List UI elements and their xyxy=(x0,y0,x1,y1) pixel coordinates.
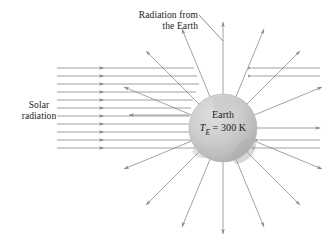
solar-radiation-rays xyxy=(57,68,199,148)
earth-ray xyxy=(254,87,322,115)
earth-ray xyxy=(182,29,210,97)
label-solar-radiation: Solar radiation xyxy=(8,100,70,122)
earth-ray xyxy=(236,159,264,227)
label-earth-radiation: Radiation from the Earth xyxy=(86,10,198,32)
earth-ray xyxy=(236,29,264,97)
radiation-diagram-figure: Solar radiation Radiation from the Earth… xyxy=(0,0,324,239)
earth-ray xyxy=(182,159,210,227)
temperature-symbol: T xyxy=(200,122,206,133)
earth-ray xyxy=(247,152,300,205)
earth-ray xyxy=(254,141,322,169)
earth-ray xyxy=(124,87,192,115)
earth-ray xyxy=(247,51,300,104)
earth-ray xyxy=(146,152,199,205)
temperature-value: = 300 K xyxy=(210,122,246,133)
label-earth-name: Earth xyxy=(186,109,260,121)
leader-line xyxy=(199,15,223,41)
temperature-subscript: E xyxy=(206,129,211,137)
earth-ray xyxy=(124,141,192,169)
label-earth-temperature: TE = 300 K xyxy=(182,122,264,136)
earth-ray xyxy=(146,51,199,104)
